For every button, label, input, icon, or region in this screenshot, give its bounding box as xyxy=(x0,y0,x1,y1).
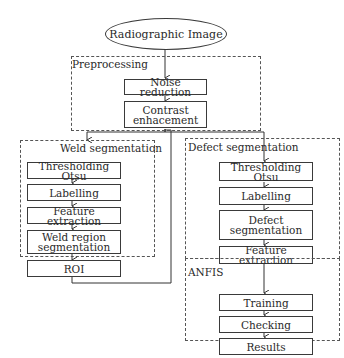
results-node: Results xyxy=(219,338,313,355)
weld-labelling-node: Labelling xyxy=(27,184,121,201)
defect-segmentation-label: Defect segmentation xyxy=(188,141,299,153)
noise-reduction-node: Noise reduction xyxy=(124,79,207,95)
defect-labelling-node: Labelling xyxy=(219,187,313,205)
contrast-line1: Contrast xyxy=(142,105,188,115)
contrast-enhancement-node: Contrast enhacement xyxy=(124,101,207,128)
preprocessing-label: Preprocessing xyxy=(72,58,148,70)
training-node: Training xyxy=(219,294,313,311)
weld-feature-extraction-node: Feature extraction xyxy=(27,207,121,224)
defect-seg-line2: segmentation xyxy=(230,225,302,235)
weld-thresholding-node: Thresholding Otsu xyxy=(27,162,121,179)
roi-node: ROI xyxy=(27,260,121,277)
weld-segmentation-label: Weld segmentation xyxy=(60,142,162,154)
checking-node: Checking xyxy=(219,316,313,333)
weld-region-segmentation-node: Weld region segmentation xyxy=(27,230,121,254)
defect-thresholding-node: Thresholding Otsu xyxy=(219,162,313,181)
weld-region-line2: segmentation xyxy=(38,242,110,252)
contrast-line2: enhacement xyxy=(133,115,198,125)
defect-segmentation-node: Defect segmentation xyxy=(219,210,313,240)
anfis-label: ANFIS xyxy=(188,266,223,278)
radiographic-image-node: Radiographic Image xyxy=(105,18,227,50)
